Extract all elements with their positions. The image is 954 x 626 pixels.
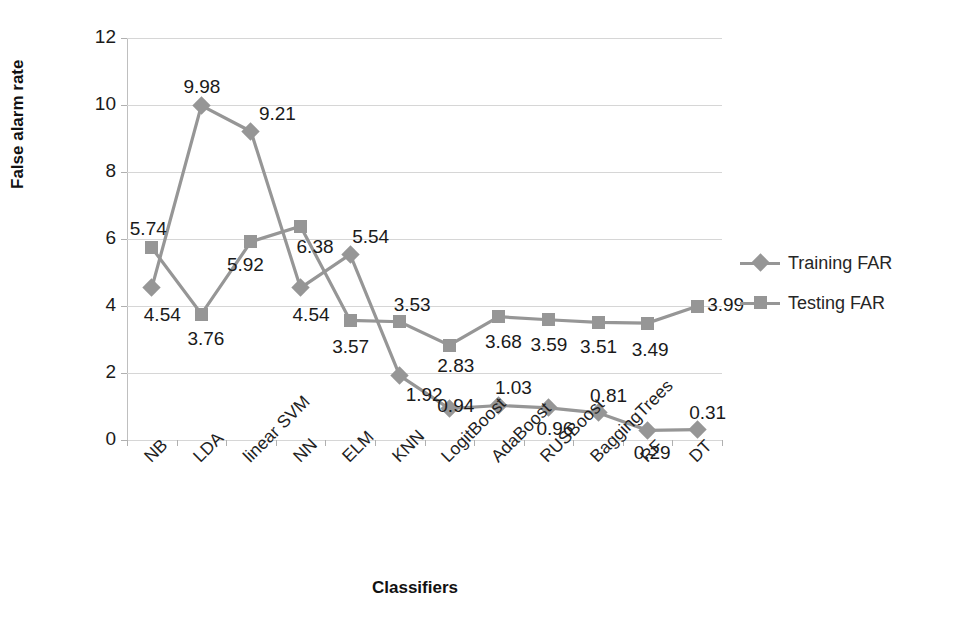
data-point-marker xyxy=(294,220,307,233)
y-axis-tick-label: 10 xyxy=(95,93,116,115)
data-point-label: 3.99 xyxy=(707,294,744,316)
x-axis-tick xyxy=(722,440,723,446)
data-point-label: 2.83 xyxy=(437,355,474,377)
legend-label: Testing FAR xyxy=(788,293,885,314)
data-point-label: 6.38 xyxy=(297,236,334,258)
legend-label: Training FAR xyxy=(788,253,892,274)
data-point-marker xyxy=(244,235,257,248)
data-point-label: 3.49 xyxy=(632,339,669,361)
data-point-marker xyxy=(492,310,505,323)
y-axis-tick-label: 2 xyxy=(105,361,116,383)
x-axis-tick xyxy=(177,440,178,446)
series-line xyxy=(152,226,697,345)
data-point-label: 5.92 xyxy=(227,254,264,276)
data-point-label: 3.57 xyxy=(332,336,369,358)
data-point-label: 0.31 xyxy=(689,402,726,424)
chart-legend: Training FARTesting FAR xyxy=(740,243,940,323)
y-axis-title: False alarm rate xyxy=(8,0,28,189)
data-point-label: 1.03 xyxy=(495,377,532,399)
data-point-marker xyxy=(542,313,555,326)
data-point-label: 5.74 xyxy=(130,218,167,240)
data-point-marker xyxy=(641,317,654,330)
square-marker-icon xyxy=(754,296,767,309)
y-axis-tick-labels: 024681012 xyxy=(70,38,116,440)
legend-entry[interactable]: Testing FAR xyxy=(740,283,940,323)
data-point-label: 3.53 xyxy=(394,294,431,316)
data-point-marker xyxy=(592,316,605,329)
data-point-marker xyxy=(393,315,406,328)
data-point-label: 4.54 xyxy=(293,304,330,326)
data-point-label: 3.68 xyxy=(485,331,522,353)
diamond-marker-icon xyxy=(751,253,769,271)
y-axis-tick-label: 0 xyxy=(105,428,116,450)
legend-swatch xyxy=(740,296,780,310)
data-point-marker xyxy=(691,300,704,313)
data-point-label: 9.98 xyxy=(183,76,220,98)
data-point-label: 3.51 xyxy=(580,336,617,358)
y-axis-tick-label: 8 xyxy=(105,160,116,182)
data-point-marker xyxy=(344,314,357,327)
data-point-label: 5.54 xyxy=(352,226,389,248)
x-axis-tick xyxy=(325,440,326,446)
legend-swatch xyxy=(740,256,780,270)
data-point-label: 3.76 xyxy=(187,328,224,350)
data-point-marker xyxy=(195,308,208,321)
data-point-marker xyxy=(443,339,456,352)
chart-figure: False alarm rate 024681012 4.549.989.214… xyxy=(0,0,954,626)
legend-entry[interactable]: Training FAR xyxy=(740,243,940,283)
y-axis-tick-label: 6 xyxy=(105,227,116,249)
data-point-label: 3.59 xyxy=(530,334,567,356)
data-point-label: 0.94 xyxy=(437,395,474,417)
data-point-label: 4.54 xyxy=(144,304,181,326)
y-axis-tick-label: 4 xyxy=(105,294,116,316)
y-axis-tick-label: 12 xyxy=(95,26,116,48)
series-lines xyxy=(127,38,722,440)
x-axis-title: Classifiers xyxy=(0,578,830,598)
x-axis-tick xyxy=(127,440,128,446)
plot-area: 4.549.989.214.545.541.920.941.030.960.81… xyxy=(127,38,722,440)
x-axis-tick xyxy=(672,440,673,446)
data-point-marker xyxy=(145,241,158,254)
data-point-label: 9.21 xyxy=(259,103,296,125)
